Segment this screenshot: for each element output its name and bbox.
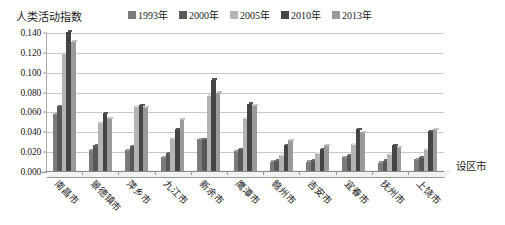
x-tick-mark bbox=[155, 171, 156, 175]
bar-group bbox=[336, 33, 372, 171]
y-tick-label: 0.060 bbox=[21, 107, 41, 117]
bar-top bbox=[212, 78, 217, 80]
x-tick-mark bbox=[336, 171, 337, 175]
x-tick-mark bbox=[191, 171, 192, 175]
bar-face bbox=[107, 118, 112, 171]
legend-swatch-icon bbox=[179, 11, 187, 19]
x-tick-label: 萍乡市 bbox=[124, 176, 155, 207]
x-tick-label: 新余市 bbox=[197, 176, 228, 207]
x-tick-label: 抚州市 bbox=[378, 176, 409, 207]
bar-group bbox=[408, 33, 444, 171]
bar bbox=[288, 140, 293, 171]
y-tick-label: 0.080 bbox=[21, 88, 41, 98]
legend-label: 1993年 bbox=[138, 7, 168, 22]
x-axis-line bbox=[46, 171, 444, 172]
y-axis-ticks: 0.1400.1200.1000.0800.0600.0400.0200.000 bbox=[0, 33, 46, 172]
legend-item-2010年: 2010年 bbox=[281, 7, 321, 22]
x-label-cell: 抚州市 bbox=[372, 176, 408, 220]
bar-group bbox=[299, 33, 335, 171]
bar-group bbox=[191, 33, 227, 171]
legend-item-1993年: 1993年 bbox=[128, 7, 168, 22]
x-axis-title: 设区市 bbox=[456, 158, 486, 173]
x-tick-label: 宜春市 bbox=[341, 176, 372, 207]
bar-face bbox=[143, 107, 148, 171]
x-label-cell: 吉安市 bbox=[299, 176, 335, 220]
legend-item-2013年: 2013年 bbox=[332, 7, 372, 22]
x-label-cell: 宜春市 bbox=[336, 176, 372, 220]
x-axis-labels: 南昌市景德镇市萍乡市九江市新余市鹰潭市赣州市吉安市宜春市抚州市上饶市 bbox=[46, 176, 444, 220]
x-tick-mark bbox=[408, 171, 409, 175]
x-tick-mark bbox=[227, 171, 228, 175]
x-label-cell: 新余市 bbox=[191, 176, 227, 220]
bar bbox=[252, 105, 257, 171]
legend-label: 2005年 bbox=[240, 7, 270, 22]
bar-group bbox=[372, 33, 408, 171]
x-tick-label: 鹰潭市 bbox=[233, 176, 264, 207]
x-tick-label: 赣州市 bbox=[269, 176, 300, 207]
chart-legend: 1993年2000年2005年2010年2013年 bbox=[128, 7, 372, 22]
x-label-cell: 鹰潭市 bbox=[227, 176, 263, 220]
bar-top bbox=[181, 118, 186, 120]
x-label-cell: 景德镇市 bbox=[82, 176, 118, 220]
plot-area bbox=[46, 33, 444, 172]
bar bbox=[143, 107, 148, 171]
bar bbox=[397, 147, 402, 171]
y-tick-label: 0.120 bbox=[21, 48, 41, 58]
legend-swatch-icon bbox=[332, 11, 340, 19]
bar bbox=[216, 93, 221, 171]
x-label-cell: 九江市 bbox=[155, 176, 191, 220]
bar-top bbox=[357, 128, 362, 130]
bar-group bbox=[263, 33, 299, 171]
x-tick-label: 上饶市 bbox=[414, 176, 445, 207]
human-activity-index-bar-chart: 人类活动指数 1993年2000年2005年2010年2013年 0.1400.… bbox=[0, 0, 505, 225]
x-tick-label: 吉安市 bbox=[305, 176, 336, 207]
bar-group bbox=[46, 33, 82, 171]
bar-face bbox=[397, 147, 402, 171]
bar-group bbox=[155, 33, 191, 171]
chart-header: 人类活动指数 1993年2000年2005年2010年2013年 bbox=[0, 6, 505, 24]
bar bbox=[360, 132, 365, 171]
bar-top bbox=[217, 91, 222, 93]
bar-top bbox=[72, 40, 77, 42]
bar-top bbox=[68, 30, 73, 32]
x-tick-mark bbox=[372, 171, 373, 175]
bar-face bbox=[433, 129, 438, 171]
x-tick-mark bbox=[82, 171, 83, 175]
legend-swatch-icon bbox=[281, 11, 289, 19]
x-label-cell: 萍乡市 bbox=[118, 176, 154, 220]
y-tick-label: 0.100 bbox=[21, 68, 41, 78]
legend-swatch-icon bbox=[230, 11, 238, 19]
bar bbox=[433, 129, 438, 171]
bar-top bbox=[108, 117, 113, 119]
x-tick-label: 南昌市 bbox=[52, 176, 83, 207]
y-tick-label: 0.020 bbox=[21, 147, 41, 157]
legend-item-2005年: 2005年 bbox=[230, 7, 270, 22]
bar-groups bbox=[46, 33, 444, 171]
legend-label: 2013年 bbox=[342, 7, 372, 22]
bar bbox=[324, 145, 329, 171]
bar-top bbox=[398, 146, 403, 148]
legend-swatch-icon bbox=[128, 11, 136, 19]
bar-group bbox=[227, 33, 263, 171]
x-label-cell: 赣州市 bbox=[263, 176, 299, 220]
legend-label: 2000年 bbox=[189, 7, 219, 22]
x-tick-label: 九江市 bbox=[160, 176, 191, 207]
bar-top bbox=[104, 112, 109, 114]
bar-face bbox=[360, 132, 365, 171]
axis-3d-shelf-cap bbox=[40, 172, 47, 173]
bar-group bbox=[118, 33, 154, 171]
y-tick-label: 0.140 bbox=[21, 28, 41, 38]
bar-top bbox=[325, 144, 330, 146]
bar-group bbox=[82, 33, 118, 171]
bar bbox=[107, 118, 112, 171]
bar-face bbox=[216, 93, 221, 171]
y-tick-label: 0.000 bbox=[21, 167, 41, 177]
bar-face bbox=[180, 119, 185, 171]
bar-top bbox=[362, 131, 367, 133]
x-tick-mark bbox=[118, 171, 119, 175]
bar-face bbox=[324, 145, 329, 171]
bar bbox=[71, 42, 76, 171]
x-label-cell: 上饶市 bbox=[408, 176, 444, 220]
x-tick-mark bbox=[263, 171, 264, 175]
x-label-cell: 南昌市 bbox=[46, 176, 82, 220]
